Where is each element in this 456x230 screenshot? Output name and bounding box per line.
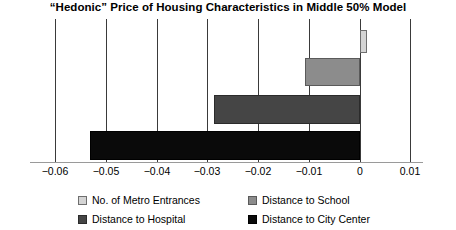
gridline-0 xyxy=(55,19,56,163)
x-tick-label-4: −0.02 xyxy=(245,165,272,177)
legend-swatch-icon xyxy=(78,215,87,224)
x-tick-label-2: −0.04 xyxy=(144,165,171,177)
x-axis-baseline xyxy=(30,162,423,163)
x-tick-label-6: 0 xyxy=(357,165,363,177)
x-tick-label-5: −0.01 xyxy=(296,165,323,177)
x-tick-label-0: −0.06 xyxy=(42,165,69,177)
x-tick-label-1: −0.05 xyxy=(93,165,120,177)
legend-swatch-icon xyxy=(248,215,257,224)
bar-3 xyxy=(90,131,360,160)
legend-label: Distance to School xyxy=(262,194,350,206)
legend-label: No. of Metro Entrances xyxy=(92,194,200,206)
gridline-7 xyxy=(410,19,411,163)
legend-label: Distance to City Center xyxy=(262,213,370,225)
legend-item-2[interactable]: Distance to Hospital xyxy=(78,211,185,227)
bar-2 xyxy=(214,95,360,124)
legend-label: Distance to Hospital xyxy=(92,213,185,225)
legend-item-3[interactable]: Distance to City Center xyxy=(248,211,370,227)
bar-0 xyxy=(360,30,368,53)
x-tick-label-7: 0.01 xyxy=(400,165,420,177)
x-tick-label-3: −0.03 xyxy=(194,165,221,177)
bar-1 xyxy=(305,58,359,86)
legend-swatch-icon xyxy=(78,196,87,205)
chart-title: “Hedonic” Price of Housing Characteristi… xyxy=(0,1,456,13)
bar-chart: “Hedonic” Price of Housing Characteristi… xyxy=(0,0,456,230)
chart-legend: No. of Metro EntrancesDistance to School… xyxy=(0,190,456,230)
plot-area xyxy=(0,19,456,163)
legend-item-0[interactable]: No. of Metro Entrances xyxy=(78,192,200,208)
legend-item-1[interactable]: Distance to School xyxy=(248,192,350,208)
legend-swatch-icon xyxy=(248,196,257,205)
x-axis-tick-labels: −0.06−0.05−0.04−0.03−0.02−0.0100.01 xyxy=(0,165,456,181)
